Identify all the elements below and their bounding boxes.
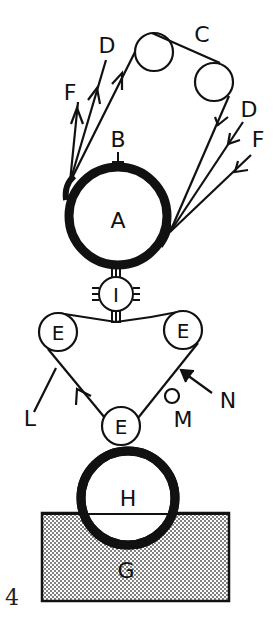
m-roller bbox=[165, 389, 179, 403]
component-c bbox=[135, 33, 233, 101]
label-a: A bbox=[110, 208, 125, 233]
l-line bbox=[34, 368, 56, 412]
label-n: N bbox=[220, 388, 236, 413]
right-strands bbox=[170, 96, 251, 232]
label-e-bottom: E bbox=[115, 415, 128, 439]
label-d-right: D bbox=[241, 97, 258, 122]
component-b bbox=[112, 152, 124, 162]
diagram-canvas: A B C D F D F I E E E L M N H G 4 bbox=[0, 0, 279, 630]
label-h: H bbox=[120, 486, 137, 511]
d-right-line bbox=[170, 122, 243, 232]
label-i: I bbox=[113, 283, 119, 307]
figure-number: 4 bbox=[5, 585, 19, 610]
label-e-left: E bbox=[52, 321, 65, 345]
label-f-right: F bbox=[252, 127, 265, 152]
e-belt-left bbox=[48, 349, 105, 418]
label-f-left: F bbox=[64, 80, 77, 105]
n-arrow-icon bbox=[181, 370, 194, 382]
c-right-arrow-icon bbox=[215, 117, 228, 125]
f-right-line bbox=[170, 155, 251, 232]
label-d-left: D bbox=[99, 33, 116, 58]
label-b: B bbox=[110, 127, 125, 152]
label-l: L bbox=[24, 406, 37, 431]
label-c: C bbox=[194, 22, 209, 47]
label-m: M bbox=[174, 407, 193, 432]
c-right-line bbox=[170, 96, 229, 232]
c-roller-2 bbox=[195, 63, 233, 101]
label-g: G bbox=[117, 558, 134, 583]
label-e-right: E bbox=[177, 319, 190, 343]
left-strands bbox=[70, 48, 137, 182]
